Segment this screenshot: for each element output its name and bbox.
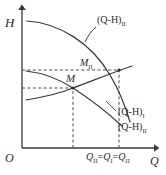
curve-label-pump-II-text: (Q-H)	[97, 14, 121, 25]
marker-point-mii	[117, 68, 120, 71]
curve-label-pump-II-sub: II	[121, 20, 125, 27]
curve-label-system-I: (Q-H)I	[118, 107, 145, 119]
x-axis-label: Q	[150, 155, 159, 167]
leader-line-pump-label	[85, 27, 96, 42]
curve-label-system-II: (Q-H)II	[118, 122, 147, 134]
chart-canvas	[0, 0, 166, 175]
marker-point-m	[71, 86, 74, 89]
leader-line-curve-I-label	[106, 101, 116, 111]
point-label-mii: MII	[80, 58, 93, 70]
curve-label-system-I-text: (Q-H)	[118, 106, 142, 117]
x-axis-tick-label: QII=QI=QII	[86, 152, 130, 164]
origin-label: O	[5, 152, 14, 164]
curve-label-system-II-sub: II	[142, 127, 146, 134]
point-label-m-text: M	[66, 72, 75, 84]
y-axis-label: H	[5, 16, 14, 29]
curve-system-II	[26, 66, 132, 100]
curve-pump-main	[27, 21, 130, 122]
point-label-m: M	[66, 73, 75, 84]
tick-q3-sub: II	[125, 157, 129, 164]
pump-curve-figure: H O Q (Q-H)II (Q-H)I (Q-H)II M MII QII=Q…	[0, 0, 166, 175]
curve-label-system-I-sub: I	[142, 112, 144, 119]
point-label-mii-sub: II	[88, 63, 92, 70]
curve-label-pump-II: (Q-H)II	[97, 15, 126, 27]
curve-label-system-II-text: (Q-H)	[118, 121, 142, 132]
